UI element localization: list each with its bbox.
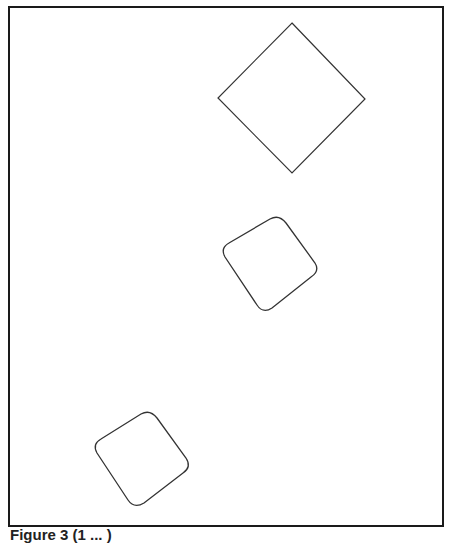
figure-caption: Figure 3 (1 ... ) (10, 526, 112, 544)
diamond-shape (218, 23, 365, 173)
rounded-square-middle (223, 217, 317, 310)
rounded-square-bottom (95, 412, 188, 505)
